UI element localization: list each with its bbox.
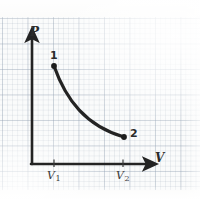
tick-label-v2-base: V: [116, 169, 124, 182]
tick-label-v1-base: V: [47, 169, 55, 182]
tick-label-v1-subscript: 1: [55, 174, 60, 183]
tick-label-v1: V1: [47, 170, 61, 183]
pv-diagram-figure: P V 1 2 V1 V2: [0, 0, 200, 199]
state-label-1: 1: [50, 50, 58, 61]
tick-label-v2-subscript: 2: [124, 174, 129, 183]
state-point-1: [51, 63, 57, 69]
state-point-2: [121, 134, 127, 140]
x-axis-label: V: [155, 152, 164, 164]
y-axis-label: P: [30, 26, 39, 38]
state-label-2: 2: [130, 128, 138, 139]
isotherm-curve: [54, 66, 124, 137]
tick-label-v2: V2: [116, 170, 130, 183]
